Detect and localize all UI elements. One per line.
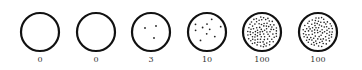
circle-2 xyxy=(77,13,115,51)
circle-label-6: 100 xyxy=(303,55,333,64)
circle-label-3: 3 xyxy=(136,55,166,64)
dot-count-diagram: 0 0 3 10 100 100 xyxy=(0,0,362,70)
circle-1 xyxy=(21,13,59,51)
circle-label-4: 10 xyxy=(192,55,222,64)
circle-3 xyxy=(132,13,170,51)
circle-6 xyxy=(299,13,337,51)
circle-5 xyxy=(243,13,281,51)
circle-label-1: 0 xyxy=(25,55,55,64)
circle-label-5: 100 xyxy=(247,55,277,64)
circle-4 xyxy=(188,13,226,51)
circle-label-2: 0 xyxy=(81,55,111,64)
